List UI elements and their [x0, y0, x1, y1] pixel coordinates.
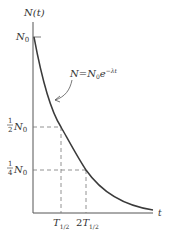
- x-axis-label: t: [158, 208, 162, 218]
- svg-text:4: 4: [8, 169, 13, 177]
- equation-arrow: [55, 80, 72, 100]
- svg-text:N0: N0: [13, 164, 27, 177]
- y-tick-quarter: 1 4 N0: [7, 160, 27, 177]
- x-tick-t-half: T1/2: [53, 217, 70, 230]
- svg-text:1: 1: [8, 160, 12, 168]
- x-tick-2t-half: 2T1/2: [76, 217, 99, 230]
- equation-label: N=N0e−λt: [69, 67, 117, 80]
- y-axis-label: N(t): [23, 7, 45, 18]
- svg-text:2: 2: [8, 126, 12, 134]
- decay-curve: [34, 37, 153, 210]
- half-life-guides: [33, 127, 86, 213]
- decay-diagram: N(t) t N0 1 2 N0 1 4 N0 T1/2 2T1/2 N=N0e…: [0, 0, 169, 238]
- y-tick-n0: N0: [15, 31, 29, 44]
- svg-text:N0: N0: [13, 121, 27, 134]
- svg-text:1: 1: [8, 117, 12, 125]
- y-tick-half: 1 2 N0: [7, 117, 27, 134]
